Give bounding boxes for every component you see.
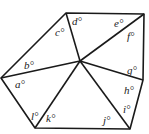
angle-label-a: a° xyxy=(15,78,26,90)
spoke-left xyxy=(1,61,80,78)
angle-diagram: a° b° c° d° e° f° g° h° i° j° k° l° xyxy=(0,0,149,134)
angle-label-h: h° xyxy=(124,84,135,96)
angle-label-k: k° xyxy=(46,112,56,124)
angle-label-i: i° xyxy=(123,103,131,115)
angle-label-b: b° xyxy=(24,59,35,71)
angle-label-c: c° xyxy=(55,26,65,38)
angle-label-d: d° xyxy=(72,15,83,27)
angle-label-f: f° xyxy=(127,30,135,42)
spoke-bottom-left xyxy=(35,61,80,128)
angle-label-g: g° xyxy=(127,64,138,76)
angle-label-e: e° xyxy=(114,17,124,29)
angle-label-j: j° xyxy=(101,114,111,126)
polygon-figure: a° b° c° d° e° f° g° h° i° j° k° l° xyxy=(0,0,149,134)
angle-label-l: l° xyxy=(31,110,39,122)
